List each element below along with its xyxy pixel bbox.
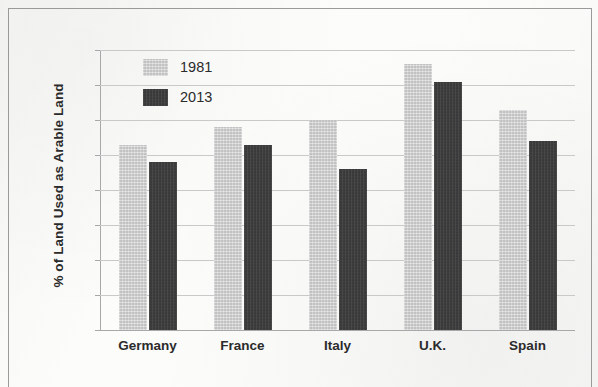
bar-france-1981 bbox=[214, 127, 242, 330]
y-tick-mark-30 bbox=[95, 225, 100, 226]
bar-spain-1981 bbox=[499, 110, 527, 331]
y-tick-mark-60 bbox=[95, 120, 100, 121]
y-axis-title: % of Land Used as Arable Land bbox=[51, 51, 66, 321]
legend-item-1981: 1981 bbox=[143, 54, 212, 80]
bar-italy-2013 bbox=[339, 169, 367, 330]
bar-germany-1981 bbox=[119, 145, 147, 331]
gridline-0 bbox=[100, 330, 575, 331]
bar-italy-1981 bbox=[309, 120, 337, 330]
x-label-italy: Italy bbox=[324, 338, 351, 353]
x-label-germany: Germany bbox=[118, 338, 177, 353]
legend-swatch-2013 bbox=[143, 89, 168, 106]
y-tick-mark-80 bbox=[95, 50, 100, 51]
y-tick-mark-0 bbox=[95, 330, 100, 331]
y-tick-mark-50 bbox=[95, 155, 100, 156]
y-tick-mark-40 bbox=[95, 190, 100, 191]
bar-uk-2013 bbox=[434, 82, 462, 331]
x-label-uk: U.K. bbox=[419, 338, 446, 353]
bar-uk-1981 bbox=[404, 64, 432, 330]
legend-item-2013: 2013 bbox=[143, 84, 212, 110]
x-label-spain: Spain bbox=[509, 338, 546, 353]
x-label-france: France bbox=[220, 338, 264, 353]
bar-france-2013 bbox=[244, 145, 272, 331]
chart-page: % of Land Used as Arable Land GermanyFra… bbox=[0, 0, 598, 387]
legend-label-2013: 2013 bbox=[180, 89, 212, 105]
legend-swatch-1981 bbox=[143, 59, 168, 76]
grouped-bar-chart: % of Land Used as Arable Land GermanyFra… bbox=[0, 0, 598, 387]
y-tick-mark-70 bbox=[95, 85, 100, 86]
bar-germany-2013 bbox=[149, 162, 177, 330]
bar-spain-2013 bbox=[529, 141, 557, 330]
chart-legend: 19812013 bbox=[143, 54, 212, 114]
y-tick-mark-10 bbox=[95, 295, 100, 296]
gridline-80 bbox=[100, 50, 575, 51]
y-tick-mark-20 bbox=[95, 260, 100, 261]
legend-label-1981: 1981 bbox=[180, 59, 212, 75]
